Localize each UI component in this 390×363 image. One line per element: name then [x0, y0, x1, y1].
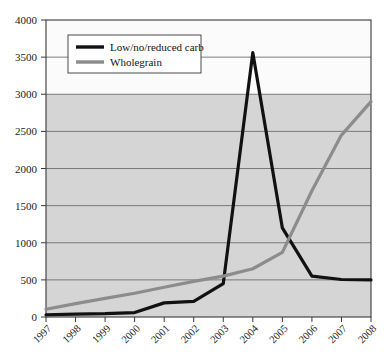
y-tick-label: 2500 — [15, 125, 38, 137]
y-tick-label: 3000 — [15, 88, 38, 100]
y-axis-tick-marks — [41, 20, 46, 317]
y-tick-label: 4000 — [15, 14, 38, 26]
x-tick-label: 2005 — [267, 323, 290, 346]
x-tick-label: 1998 — [60, 323, 83, 346]
y-tick-label: 2000 — [15, 163, 38, 175]
x-tick-label: 1997 — [31, 323, 54, 346]
x-tick-label: 2002 — [179, 323, 202, 346]
y-tick-label: 1000 — [15, 237, 38, 249]
x-tick-label: 2006 — [297, 323, 320, 346]
x-tick-label: 2000 — [119, 323, 142, 346]
line-chart: 05001000150020002500300035004000 1997199… — [0, 0, 390, 363]
chart-canvas: 05001000150020002500300035004000 1997199… — [0, 0, 390, 363]
x-tick-label: 2001 — [149, 323, 172, 346]
x-tick-label: 2008 — [356, 323, 379, 346]
x-tick-label: 2003 — [208, 323, 231, 346]
x-axis-tick-marks — [46, 317, 371, 322]
x-axis-tick-labels: 1997199819992000200120022003200420052006… — [31, 322, 379, 345]
y-tick-label: 3500 — [15, 51, 38, 63]
y-tick-label: 1500 — [15, 200, 38, 212]
legend-label-wholegrain: Wholegrain — [110, 56, 162, 68]
x-tick-label: 2004 — [238, 322, 261, 345]
x-tick-label: 1999 — [90, 323, 113, 346]
y-tick-label: 0 — [32, 311, 38, 323]
legend-label-low-no-reduced-carb: Low/no/reduced carb — [110, 41, 204, 53]
chart-legend: Low/no/reduced carb Wholegrain — [68, 35, 204, 73]
x-tick-label: 2007 — [326, 323, 349, 346]
y-tick-label: 500 — [21, 274, 38, 286]
y-axis-tick-labels: 05001000150020002500300035004000 — [15, 14, 38, 323]
